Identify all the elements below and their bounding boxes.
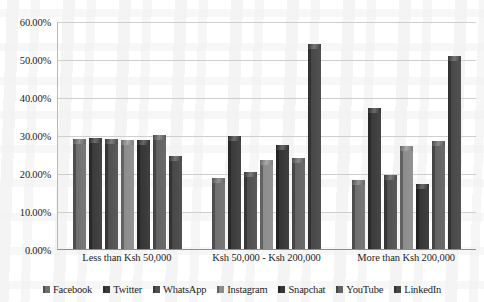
y-axis-tick-label: 30.00%	[20, 131, 51, 142]
bar-face	[228, 136, 241, 249]
bar-snapchat[interactable]	[276, 145, 289, 249]
plot-area	[57, 22, 476, 250]
bar-top-bevel	[137, 140, 150, 145]
bar-face	[73, 139, 86, 249]
bar-face	[352, 180, 365, 249]
legend-swatch-icon	[103, 286, 110, 293]
y-axis: 60.00%50.00%40.00%30.00%20.00%10.00%0.00…	[0, 0, 57, 252]
bar-twitter[interactable]	[89, 138, 102, 249]
bar-face	[212, 178, 225, 249]
x-axis-category-label: More than Ksh 200,000	[336, 252, 476, 272]
bar-top-bevel	[352, 180, 365, 185]
bar-face	[260, 160, 273, 249]
legend-label: WhatsApp	[163, 284, 206, 295]
bar-twitter[interactable]	[368, 108, 381, 249]
bar-top-bevel	[400, 146, 413, 151]
bar-face	[432, 141, 445, 249]
bar-top-bevel	[228, 136, 241, 141]
bar-top-bevel	[153, 135, 166, 140]
legend-label: Facebook	[53, 284, 92, 295]
bar-face	[169, 156, 182, 249]
legend-item-snapchat[interactable]: Snapchat	[278, 284, 325, 295]
bar-face	[137, 140, 150, 249]
bar-linkedin[interactable]	[448, 56, 461, 249]
bar-face	[308, 44, 321, 249]
bar-group	[197, 22, 336, 249]
legend-label: Instagram	[227, 284, 267, 295]
bar-linkedin[interactable]	[308, 44, 321, 249]
bar-snapchat[interactable]	[416, 184, 429, 249]
bar-face	[276, 145, 289, 249]
y-axis-tick-label: 50.00%	[20, 55, 51, 66]
legend-swatch-icon	[217, 286, 224, 293]
bar-top-bevel	[169, 156, 182, 161]
bar-face	[384, 175, 397, 249]
legend-item-instagram[interactable]: Instagram	[217, 284, 267, 295]
bar-whatsapp[interactable]	[244, 172, 257, 249]
bar-instagram[interactable]	[121, 140, 134, 249]
bar-top-bevel	[368, 108, 381, 113]
grouped-bar-chart: 60.00%50.00%40.00%30.00%20.00%10.00%0.00…	[0, 0, 484, 302]
legend-swatch-icon	[153, 286, 160, 293]
bar-whatsapp[interactable]	[384, 175, 397, 249]
bar-group	[337, 22, 476, 249]
legend-swatch-icon	[278, 286, 285, 293]
bar-face	[416, 184, 429, 249]
chart-legend: FacebookTwitterWhatsAppInstagramSnapchat…	[0, 279, 484, 299]
legend-swatch-icon	[336, 286, 343, 293]
bar-instagram[interactable]	[260, 160, 273, 249]
bar-top-bevel	[276, 145, 289, 150]
bar-facebook[interactable]	[212, 178, 225, 249]
bar-instagram[interactable]	[400, 146, 413, 249]
bar-face	[244, 172, 257, 249]
bar-facebook[interactable]	[352, 180, 365, 249]
legend-item-whatsapp[interactable]: WhatsApp	[153, 284, 206, 295]
bar-face	[121, 140, 134, 249]
legend-item-twitter[interactable]: Twitter	[103, 284, 142, 295]
x-axis-category-label: Less than Ksh 50,000	[57, 252, 197, 272]
y-axis-tick-label: 20.00%	[20, 169, 51, 180]
bar-youtube[interactable]	[153, 135, 166, 249]
y-axis-tick-label: 10.00%	[20, 207, 51, 218]
x-axis-category-label: Ksh 50,000 - Ksh 200,000	[197, 252, 337, 272]
bar-face	[292, 158, 305, 249]
bar-top-bevel	[384, 175, 397, 180]
bar-snapchat[interactable]	[137, 140, 150, 249]
bar-top-bevel	[212, 178, 225, 183]
bar-face	[368, 108, 381, 249]
bar-top-bevel	[416, 184, 429, 189]
legend-label: Snapchat	[288, 284, 325, 295]
y-axis-tick-label: 0.00%	[25, 245, 51, 256]
bar-face	[89, 138, 102, 249]
bar-twitter[interactable]	[228, 136, 241, 249]
bar-linkedin[interactable]	[169, 156, 182, 249]
bar-face	[153, 135, 166, 249]
bar-facebook[interactable]	[73, 139, 86, 249]
legend-item-linkedin[interactable]: LinkedIn	[394, 284, 441, 295]
legend-label: Twitter	[113, 284, 142, 295]
y-axis-tick-label: 40.00%	[20, 93, 51, 104]
bar-face	[400, 146, 413, 249]
legend-swatch-icon	[394, 286, 401, 293]
bar-face	[105, 139, 118, 249]
bar-whatsapp[interactable]	[105, 139, 118, 249]
legend-item-youtube[interactable]: YouTube	[336, 284, 383, 295]
legend-swatch-icon	[43, 286, 50, 293]
bar-youtube[interactable]	[292, 158, 305, 249]
bar-top-bevel	[73, 139, 86, 144]
bar-top-bevel	[308, 44, 321, 49]
bar-top-bevel	[89, 138, 102, 143]
bar-face	[448, 56, 461, 249]
legend-label: YouTube	[346, 284, 383, 295]
bar-groups	[58, 22, 476, 249]
legend-item-facebook[interactable]: Facebook	[43, 284, 92, 295]
y-axis-tick-label: 60.00%	[20, 17, 51, 28]
bar-group	[58, 22, 197, 249]
bar-top-bevel	[260, 160, 273, 165]
x-axis-category-labels: Less than Ksh 50,000Ksh 50,000 - Ksh 200…	[57, 252, 476, 272]
bar-youtube[interactable]	[432, 141, 445, 249]
bar-top-bevel	[244, 172, 257, 177]
bar-top-bevel	[432, 141, 445, 146]
legend-label: LinkedIn	[404, 284, 441, 295]
bar-top-bevel	[448, 56, 461, 61]
